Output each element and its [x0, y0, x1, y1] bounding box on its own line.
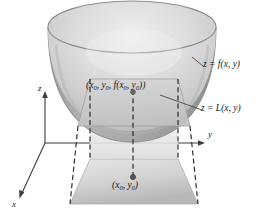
bowl-highlight	[86, 28, 182, 76]
label-point-on-surface: (x0, y0, f(x0, y0))	[86, 81, 145, 91]
x-axis-arrowhead	[19, 190, 24, 199]
label-surface-equation: z = f(x, y)	[203, 60, 240, 70]
z-axis-arrowhead	[42, 91, 48, 98]
x-axis-line	[22, 143, 45, 193]
label-tangent-plane-equation: z = L(x, y)	[201, 104, 241, 114]
label-axis-y: y	[208, 130, 212, 139]
label-axis-x: x	[12, 200, 16, 209]
label-axis-z: z	[38, 84, 42, 93]
label-point-in-xy-plane: (x0, y0)	[112, 181, 138, 191]
point-in-xy-plane-dot	[130, 174, 135, 179]
y-axis-arrowhead	[198, 140, 205, 146]
tangent-plane-figure: z = f(x, y) z = L(x, y) (x0, y0, f(x0, y…	[0, 0, 264, 217]
